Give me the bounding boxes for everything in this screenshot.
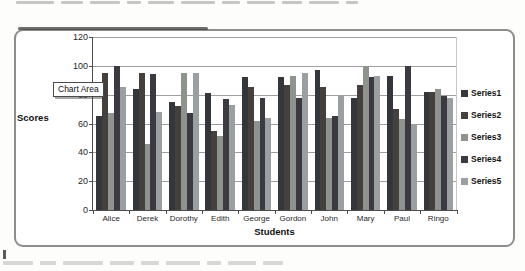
gridline <box>93 66 457 67</box>
bar-series5-derek[interactable] <box>156 112 162 210</box>
x-axis-line <box>92 210 457 211</box>
scanned-page: 020406080100120AliceDerekDorothyEdithGeo… <box>0 0 525 271</box>
y-tick-label: 120 <box>60 32 88 42</box>
bar-series5-alice[interactable] <box>120 87 126 210</box>
scan-artifact-left-mark <box>3 250 6 259</box>
legend-item-series3[interactable]: Series3 <box>461 132 501 142</box>
legend-label: Series4 <box>471 154 501 164</box>
gridline <box>93 37 457 38</box>
legend[interactable]: Series1Series2Series3Series4Series5 <box>461 88 501 186</box>
legend-marker-icon <box>461 90 468 97</box>
x-category-label: Alice <box>93 214 129 223</box>
y-axis-line <box>92 37 93 211</box>
x-category-label: Mary <box>347 214 383 223</box>
bar-series5-george[interactable] <box>265 118 271 210</box>
chart-area-tooltip: Chart Area <box>53 82 104 97</box>
plot-right-border <box>456 37 457 211</box>
legend-label: Series1 <box>471 88 501 98</box>
legend-marker-icon <box>461 156 468 163</box>
y-tick-label: 0 <box>60 205 88 215</box>
y-axis-title: Scores <box>17 112 49 123</box>
x-category-label: Derek <box>129 214 165 223</box>
legend-item-series4[interactable]: Series4 <box>461 154 501 164</box>
legend-item-series5[interactable]: Series5 <box>461 176 501 186</box>
bar-series5-gordon[interactable] <box>302 73 308 210</box>
legend-marker-icon <box>461 178 468 185</box>
x-axis-title: Students <box>93 226 456 237</box>
x-category-label: George <box>238 214 274 223</box>
bar-series5-mary[interactable] <box>374 76 380 210</box>
x-category-label: John <box>311 214 347 223</box>
chart-area-tooltip-label: Chart Area <box>58 84 99 94</box>
scan-artifact-border-ink <box>18 27 208 30</box>
gridline <box>93 95 457 96</box>
legend-item-series1[interactable]: Series1 <box>461 88 501 98</box>
scan-artifact-top-text <box>16 1 358 4</box>
bar-series5-dorothy[interactable] <box>193 73 199 210</box>
legend-label: Series2 <box>471 110 501 120</box>
x-category-label: Ringo <box>420 214 456 223</box>
y-tick-label: 60 <box>60 119 88 129</box>
bar-series5-ringo[interactable] <box>447 98 453 210</box>
bar-series5-john[interactable] <box>338 95 344 210</box>
x-category-label: Paul <box>384 214 420 223</box>
bar-series5-paul[interactable] <box>411 124 417 211</box>
x-category-label: Dorothy <box>166 214 202 223</box>
bar-series5-edith[interactable] <box>229 105 235 210</box>
legend-marker-icon <box>461 112 468 119</box>
y-tick-label: 100 <box>60 61 88 71</box>
y-tick-label: 20 <box>60 176 88 186</box>
legend-item-series2[interactable]: Series2 <box>461 110 501 120</box>
y-tick-label: 40 <box>60 147 88 157</box>
scan-artifact-bottom-text <box>3 261 283 265</box>
legend-marker-icon <box>461 134 468 141</box>
x-category-label: Gordon <box>275 214 311 223</box>
legend-label: Series3 <box>471 132 501 142</box>
legend-label: Series5 <box>471 176 501 186</box>
x-category-label: Edith <box>202 214 238 223</box>
